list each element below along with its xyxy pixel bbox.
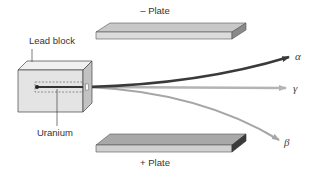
- gamma-ray: [88, 87, 286, 88]
- channel-opening: [86, 84, 89, 90]
- uranium-source-dot: [35, 85, 39, 89]
- negative-plate-front: [96, 32, 232, 39]
- negative-plate: [96, 23, 246, 39]
- alpha-label: α: [295, 50, 301, 62]
- alpha-ray: [88, 57, 289, 87]
- lead-block-front: [18, 70, 83, 112]
- negative-plate-top: [96, 23, 246, 32]
- gamma-label: γ: [293, 82, 298, 94]
- lead-block-label: Lead block: [29, 35, 75, 46]
- lead-block-top: [18, 61, 92, 70]
- negative-plate-label: – Plate: [140, 5, 170, 16]
- positive-plate-label: + Plate: [140, 157, 170, 168]
- uranium-label: Uranium: [37, 127, 73, 138]
- lead-block: [18, 61, 92, 112]
- beta-label: β: [283, 136, 290, 148]
- beta-ray: [88, 87, 279, 140]
- positive-plate: [96, 134, 246, 152]
- positive-plate-front: [96, 145, 232, 152]
- radiation-deflection-diagram: – Plate + Plate Lead block Uranium α γ β: [0, 0, 309, 175]
- positive-plate-top: [96, 134, 246, 145]
